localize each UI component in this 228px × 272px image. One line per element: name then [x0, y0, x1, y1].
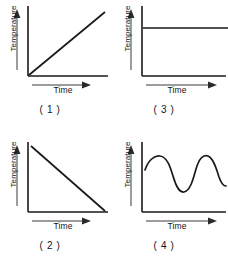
plot-area-2: Temperature Time — [0, 136, 114, 244]
data-curve-increasing — [29, 12, 105, 75]
graph-panel-3: Temperature Time ( 3 ) — [114, 0, 228, 136]
y-axis-label: Temperature — [7, 134, 20, 196]
x-axis-label: Time — [138, 85, 216, 95]
y-axis-label: Temperature — [7, 0, 20, 60]
plot-area-1: Temperature Time — [0, 0, 114, 108]
panel-caption-1: ( 1 ) — [0, 104, 100, 115]
graph-panel-4: Temperature Time ( 4 ) — [114, 136, 228, 272]
plot-area-4: Temperature Time — [114, 136, 228, 244]
graph-panel-2: Temperature Time ( 2 ) — [0, 136, 114, 272]
panel-caption-3: ( 3 ) — [114, 104, 214, 115]
graph-panel-1: Temperature Time ( 1 ) — [0, 0, 114, 136]
temperature-time-figure: Temperature Time ( 1 ) Temperature Time … — [0, 0, 228, 272]
y-axis-label: Temperature — [121, 0, 134, 60]
x-axis-label: Time — [24, 221, 102, 231]
x-axis-label: Time — [24, 85, 102, 95]
data-curve-oscillating — [145, 156, 226, 193]
y-axis-label: Temperature — [121, 134, 134, 196]
panel-caption-2: ( 2 ) — [0, 240, 100, 251]
data-curve-decreasing — [31, 146, 105, 211]
plot-area-3: Temperature Time — [114, 0, 228, 108]
x-axis-label: Time — [138, 221, 216, 231]
panel-caption-4: ( 4 ) — [114, 240, 214, 251]
